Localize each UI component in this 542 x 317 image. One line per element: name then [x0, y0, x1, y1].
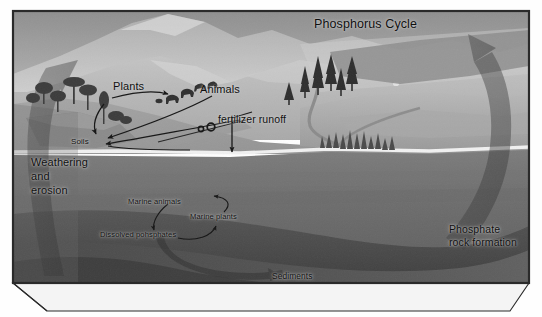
- block-bottom-face: [13, 283, 529, 311]
- paper-grain: [13, 11, 529, 283]
- scene-clip-group: [13, 11, 529, 283]
- phosphorus-cycle-figure: Phosphorus Cycle Plants Animals fertiliz…: [0, 0, 542, 317]
- diagram-canvas: [0, 0, 542, 317]
